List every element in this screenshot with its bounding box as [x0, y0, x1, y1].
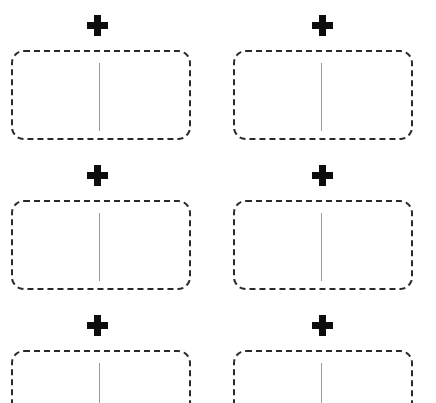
dashed-placeholder-card[interactable]	[11, 50, 191, 140]
grid-cell-4	[218, 150, 436, 300]
dashed-placeholder-card[interactable]	[11, 350, 191, 403]
plus-vertical-bar	[319, 315, 326, 336]
vertical-divider	[321, 63, 322, 131]
plus-vertical-bar	[319, 15, 326, 36]
dashed-placeholder-card[interactable]	[233, 200, 413, 290]
add-plus-icon[interactable]	[312, 15, 333, 36]
grid-cell-5	[0, 300, 218, 403]
add-plus-icon[interactable]	[87, 15, 108, 36]
vertical-divider	[321, 363, 322, 403]
placeholder-card-grid	[0, 0, 436, 403]
add-plus-icon[interactable]	[87, 165, 108, 186]
grid-cell-1	[0, 0, 218, 150]
vertical-divider	[321, 213, 322, 281]
grid-cell-2	[218, 0, 436, 150]
plus-vertical-bar	[94, 315, 101, 336]
add-plus-icon[interactable]	[312, 165, 333, 186]
grid-cell-3	[0, 150, 218, 300]
plus-vertical-bar	[94, 165, 101, 186]
vertical-divider	[99, 213, 100, 281]
dashed-placeholder-card[interactable]	[233, 50, 413, 140]
plus-vertical-bar	[319, 165, 326, 186]
plus-vertical-bar	[94, 15, 101, 36]
vertical-divider	[99, 63, 100, 131]
dashed-placeholder-card[interactable]	[11, 200, 191, 290]
vertical-divider	[99, 363, 100, 403]
dashed-placeholder-card[interactable]	[233, 350, 413, 403]
grid-cell-6	[218, 300, 436, 403]
add-plus-icon[interactable]	[87, 315, 108, 336]
add-plus-icon[interactable]	[312, 315, 333, 336]
